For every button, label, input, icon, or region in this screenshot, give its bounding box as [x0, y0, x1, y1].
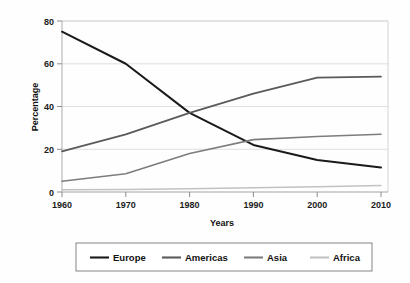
x-tick-label-1990: 1990 — [243, 200, 263, 210]
legend-label-asia: Asia — [267, 252, 288, 263]
y-axis-title: Percentage — [30, 83, 40, 132]
y-tick-label-40: 40 — [44, 102, 54, 112]
x-axis: 1960 1970 1980 1990 2000 2010 — [52, 192, 391, 210]
line-chart-figure: 80 60 40 20 0 1960 1970 1980 1990 2000 2… — [0, 0, 410, 283]
x-tick-label-1970: 1970 — [116, 200, 136, 210]
legend-label-americas: Americas — [185, 252, 228, 263]
x-tick-label-2000: 2000 — [307, 200, 327, 210]
data-series-group — [62, 32, 381, 190]
x-tick-label-1960: 1960 — [52, 200, 72, 210]
legend-label-europe: Europe — [113, 252, 146, 263]
y-tick-label-80: 80 — [44, 17, 54, 27]
series-line-americas — [62, 77, 381, 152]
x-axis-title: Years — [210, 218, 234, 228]
chart-canvas: 80 60 40 20 0 1960 1970 1980 1990 2000 2… — [0, 0, 410, 283]
x-tick-label-1980: 1980 — [180, 200, 200, 210]
y-tick-label-0: 0 — [49, 188, 54, 198]
y-axis: 80 60 40 20 0 — [44, 17, 62, 198]
x-tick-label-2010: 2010 — [371, 200, 391, 210]
y-tick-label-60: 60 — [44, 59, 54, 69]
chart-legend: EuropeAmericasAsiaAfrica — [76, 243, 372, 271]
y-tick-label-20: 20 — [44, 145, 54, 155]
gridlines — [62, 21, 388, 192]
series-line-africa — [62, 186, 381, 190]
series-line-asia — [62, 134, 381, 181]
legend-label-africa: Africa — [333, 252, 361, 263]
